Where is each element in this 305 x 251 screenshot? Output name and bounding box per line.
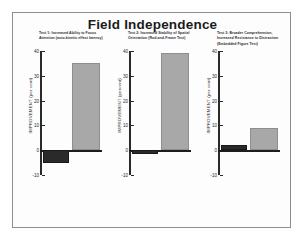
figure-root: Field Independence Test 1: Increased Abi… xyxy=(0,0,305,251)
y-tick-20 xyxy=(220,101,223,102)
chart-panel-group: Test 1: Increased Ability to Focus Atten… xyxy=(22,31,284,196)
y-tick-label-0: 0 xyxy=(200,148,217,153)
panel-caption-test-3: Test 3: Broader Comprehension, Increased… xyxy=(217,31,283,47)
y-tick-label--10: -10 xyxy=(22,173,39,178)
y-axis-line-test-2 xyxy=(129,51,131,175)
plot-area-test-1: IMPROVEMENT (per cent) 403020100-10 xyxy=(22,51,106,191)
y-tick-label-20: 20 xyxy=(22,98,39,103)
y-tick-30 xyxy=(42,76,45,77)
bar-control-test-3 xyxy=(221,145,247,150)
y-tick-20 xyxy=(131,101,134,102)
y-tick-label-40: 40 xyxy=(111,49,128,54)
zero-baseline-test-3 xyxy=(218,150,280,152)
y-tick-label-0: 0 xyxy=(111,148,128,153)
chart-panel-test-3: Test 3: Broader Comprehension, Increased… xyxy=(200,31,284,196)
y-tick-label-40: 40 xyxy=(200,49,217,54)
y-tick-30 xyxy=(131,76,134,77)
bar-experimental-test-1 xyxy=(72,63,100,150)
y-tick-40 xyxy=(131,51,134,52)
y-tick-label-10: 10 xyxy=(22,123,39,128)
y-tick-label-30: 30 xyxy=(111,73,128,78)
y-tick-40 xyxy=(42,51,45,52)
y-tick-20 xyxy=(42,101,45,102)
y-tick--10 xyxy=(42,175,45,176)
chart-panel-test-1: Test 1: Increased Ability to Focus Atten… xyxy=(22,31,106,196)
figure-title: Field Independence xyxy=(0,17,305,32)
y-axis-line-test-1 xyxy=(40,51,42,175)
panel-caption-test-1: Test 1: Increased Ability to Focus Atten… xyxy=(39,31,105,42)
y-tick-label--10: -10 xyxy=(200,173,217,178)
y-tick-10 xyxy=(220,125,223,126)
y-tick-label--10: -10 xyxy=(111,173,128,178)
y-tick-label-30: 30 xyxy=(22,73,39,78)
y-tick--10 xyxy=(131,175,134,176)
bar-experimental-test-2 xyxy=(161,53,189,150)
bar-control-test-2 xyxy=(132,150,158,154)
y-tick-label-10: 10 xyxy=(200,123,217,128)
plot-area-test-3: IMPROVEMENT (per cent) 403020100-10 xyxy=(200,51,284,191)
bar-experimental-test-3 xyxy=(250,128,278,150)
bar-control-test-1 xyxy=(43,150,69,162)
y-tick-40 xyxy=(220,51,223,52)
y-tick-label-20: 20 xyxy=(111,98,128,103)
panel-caption-test-2: Test 2: Increased Stability of Spatial O… xyxy=(128,31,194,42)
y-tick-30 xyxy=(220,76,223,77)
y-tick-label-0: 0 xyxy=(22,148,39,153)
chart-panel-test-2: Test 2: Increased Stability of Spatial O… xyxy=(111,31,195,196)
plot-area-test-2: IMPROVEMENT (percent) 403020100-10 xyxy=(111,51,195,191)
y-tick-label-10: 10 xyxy=(111,123,128,128)
y-tick-label-20: 20 xyxy=(200,98,217,103)
y-tick-10 xyxy=(42,125,45,126)
y-tick-label-40: 40 xyxy=(22,49,39,54)
y-axis-line-test-3 xyxy=(218,51,220,175)
y-tick--10 xyxy=(220,175,223,176)
y-tick-10 xyxy=(131,125,134,126)
y-tick-label-30: 30 xyxy=(200,73,217,78)
